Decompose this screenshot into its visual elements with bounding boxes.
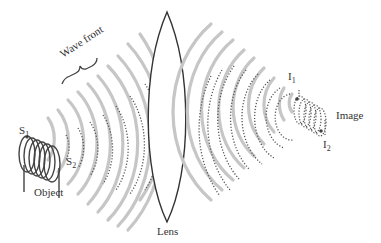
wave-front-label: Wave front — [58, 23, 106, 60]
i1-label: I1 — [288, 70, 296, 85]
s2-label: S2 — [66, 155, 76, 170]
wave-front-brace — [62, 58, 97, 84]
object-label: Object — [34, 186, 63, 198]
right-dotted-wavefronts — [199, 66, 294, 196]
i2-label: I2 — [323, 138, 331, 153]
wavefront-diagram: Wave front S1 S2 Object Lens I1 I2 Image — [0, 0, 381, 243]
point-i2 — [319, 129, 323, 133]
lens-label: Lens — [157, 225, 178, 237]
left-gray-wavefronts — [48, 34, 165, 230]
right-gray-wavefronts — [173, 24, 292, 200]
point-i1 — [295, 97, 299, 101]
image-helix — [294, 90, 326, 136]
image-label: Image — [336, 109, 364, 121]
